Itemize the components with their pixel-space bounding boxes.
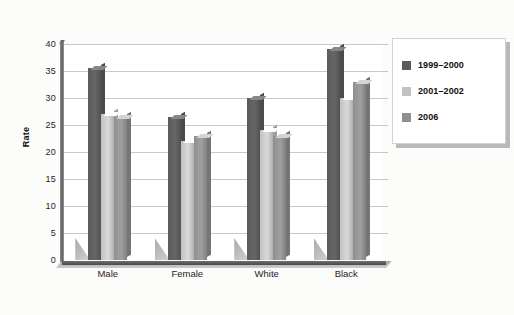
bar bbox=[114, 117, 127, 260]
bar-top bbox=[249, 96, 266, 100]
bar-face bbox=[353, 82, 366, 260]
y-axis-tick-label: 10 bbox=[30, 201, 56, 211]
bar-side bbox=[366, 77, 370, 257]
bar-side bbox=[286, 131, 290, 257]
bar-face bbox=[101, 114, 114, 260]
bar-face bbox=[114, 117, 127, 260]
bar-face bbox=[247, 98, 260, 260]
bar-top bbox=[262, 128, 279, 132]
legend-item[interactable]: 2001–2002 bbox=[402, 78, 505, 104]
x-axis-line bbox=[62, 261, 386, 265]
bar-group bbox=[327, 44, 366, 260]
bar-face bbox=[327, 49, 340, 260]
bar-top bbox=[275, 134, 292, 138]
y-axis-tick-label: 0 bbox=[30, 255, 56, 265]
bar bbox=[260, 130, 273, 260]
legend-item[interactable]: 1999–2000 bbox=[402, 52, 505, 78]
legend-label: 2006 bbox=[418, 112, 438, 122]
bar bbox=[181, 141, 194, 260]
legend-swatch bbox=[402, 87, 411, 96]
bar-top bbox=[116, 115, 133, 119]
x-axis-tick-label: Male bbox=[97, 268, 118, 279]
legend-item[interactable]: 2006 bbox=[402, 104, 505, 130]
bar bbox=[194, 136, 207, 260]
bar-face bbox=[194, 136, 207, 260]
bar-group bbox=[88, 44, 127, 260]
bar bbox=[340, 98, 353, 260]
y-axis-tick-label: 35 bbox=[30, 66, 56, 76]
legend-label: 2001–2002 bbox=[418, 86, 464, 96]
bar-face bbox=[168, 117, 181, 260]
bar-face bbox=[181, 141, 194, 260]
y-axis-tick-label: 25 bbox=[30, 120, 56, 130]
y-axis-tick-label: 5 bbox=[30, 228, 56, 238]
bar bbox=[101, 114, 114, 260]
y-axis-tick-label: 40 bbox=[30, 39, 56, 49]
legend-label: 1999–2000 bbox=[418, 60, 464, 70]
y-axis-line bbox=[60, 42, 64, 262]
y-axis-tick-label: 20 bbox=[30, 147, 56, 157]
legend-swatch bbox=[402, 61, 411, 70]
bar-group bbox=[247, 44, 286, 260]
bar-face bbox=[340, 98, 353, 260]
bar bbox=[247, 98, 260, 260]
x-axis-tick-label: Female bbox=[171, 268, 203, 279]
y-axis-tick-label: 15 bbox=[30, 174, 56, 184]
plot-area bbox=[64, 44, 382, 260]
bar bbox=[353, 82, 366, 260]
bar-face bbox=[273, 136, 286, 260]
bar-side bbox=[207, 131, 211, 257]
bar bbox=[273, 136, 286, 260]
bar-side bbox=[127, 112, 131, 257]
bar-face bbox=[88, 68, 101, 260]
bar-top bbox=[90, 66, 107, 70]
legend: 1999–20002001–20022006 bbox=[392, 38, 506, 144]
bar bbox=[327, 49, 340, 260]
bar bbox=[88, 68, 101, 260]
y-axis-tick-label: 30 bbox=[30, 93, 56, 103]
x-axis-tick-label: Black bbox=[335, 268, 358, 279]
bar-face bbox=[260, 130, 273, 260]
bar-group bbox=[168, 44, 207, 260]
legend-swatch bbox=[402, 113, 411, 122]
y-axis-tick-labels: 4035302520151050 bbox=[26, 44, 56, 260]
bar-chart: Rate 4035302520151050 MaleFemaleWhiteBla… bbox=[0, 0, 514, 315]
bar bbox=[168, 117, 181, 260]
x-axis-tick-label: White bbox=[255, 268, 279, 279]
